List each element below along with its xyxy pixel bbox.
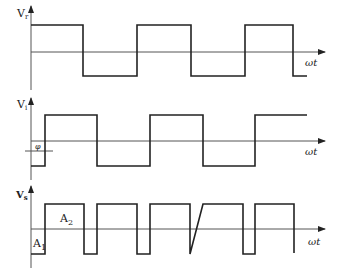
y-label-vs: Vs	[15, 189, 28, 202]
y-label-vr: Vr	[16, 7, 29, 21]
area-a2-label: A2	[59, 212, 73, 227]
panel-vr: Vr ωt	[16, 6, 325, 90]
area-a1-label: A1	[32, 237, 46, 252]
y-label-vi: Vi	[16, 98, 28, 112]
panel-vi: Vi φ ωt	[16, 98, 325, 180]
phi-label: φ	[35, 142, 41, 151]
waveform-vr	[31, 25, 307, 76]
panel-vs: Vs A1 A2 ωt	[15, 186, 325, 268]
x-label-vi: ωt	[305, 146, 318, 157]
x-label-vs: ωt	[308, 236, 321, 247]
phase-detector-waveforms: Vr ωt Vi φ ωt Vs A1 A2 ωt	[0, 0, 342, 279]
x-label-vr: ωt	[305, 57, 318, 68]
